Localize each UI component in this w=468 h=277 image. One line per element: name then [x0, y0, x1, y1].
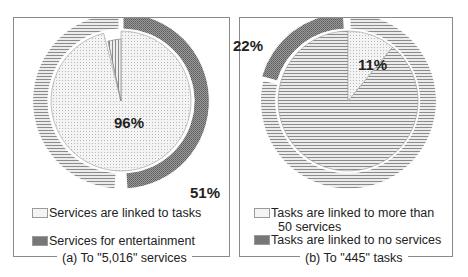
- legend-swatch-light-dots: [254, 208, 270, 218]
- donut-chart-services: [14, 18, 231, 258]
- data-label-outer: 51%: [190, 184, 220, 201]
- chart-panel-services: 96% 51% Services are linked to tasks Ser…: [13, 17, 230, 257]
- legend-swatch-light-dots: [32, 208, 48, 218]
- caption-a: (a) To "5,016" services: [57, 251, 192, 265]
- legend-label-linked: Services are linked to tasks: [49, 207, 201, 220]
- legend-label-more-than-50-line1: Tasks are linked to more than: [271, 207, 434, 220]
- legend-label-entertainment: Services for entertainment: [49, 235, 195, 248]
- data-label-inner: 11%: [358, 56, 387, 73]
- legend-swatch-dark-dots: [254, 235, 270, 245]
- data-label-inner: 96%: [114, 114, 144, 131]
- chart-panel-tasks: 11% 22% Tasks are linked to more than 50…: [239, 17, 453, 257]
- data-label-outer: 22%: [233, 37, 263, 54]
- caption-b: (b) To "445" tasks: [300, 251, 408, 265]
- legend-swatch-dark-dots: [32, 236, 48, 246]
- donut-chart-tasks: [240, 18, 454, 258]
- legend-label-no-services: Tasks are linked to no services: [271, 234, 441, 247]
